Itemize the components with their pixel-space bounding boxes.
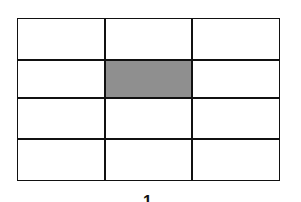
grid-column-divider [104, 18, 106, 181]
highlighted-cell [105, 61, 192, 98]
grid-row-divider [17, 97, 280, 99]
grid-row-divider [17, 59, 280, 61]
figure-caption: 1 [143, 194, 152, 202]
grid-outline [17, 18, 280, 181]
grid-column-divider [191, 18, 193, 181]
grid-row-divider [17, 138, 280, 140]
